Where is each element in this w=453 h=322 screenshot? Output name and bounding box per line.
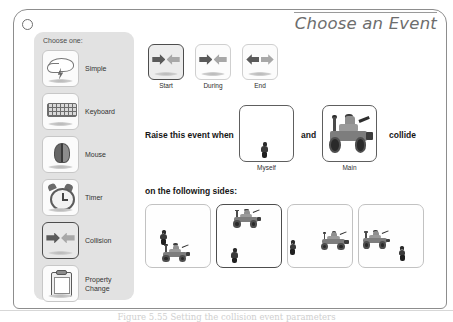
timing-option-end[interactable]: End [242,44,278,89]
choose-event-dialog: Choose an Event Choose one: Simple Keybo… [13,9,447,309]
condition-conjunction-label: and [301,130,316,140]
category-panel: Choose one: Simple Keyboard Mouse [34,32,134,300]
side-option-3[interactable] [287,204,353,268]
timing-option-during[interactable]: During [195,44,231,89]
object-b-slot[interactable] [322,105,377,162]
side-option-4[interactable] [358,204,424,268]
sidebar-item-label: Simple [85,65,106,74]
sidebar-item-label: Property Change [85,276,111,293]
rover-sprite [362,230,390,250]
sidebar-item-label: Keyboard [85,108,115,117]
sidebar-item-simple[interactable]: Simple [42,50,130,88]
collision-arrows-icon [42,222,79,259]
choose-one-label: Choose one: [43,37,83,44]
minifigure-sprite [231,248,238,263]
minifigure-sprite [399,246,406,261]
minifigure-sprite [261,142,268,157]
sidebar-item-timer[interactable]: Timer [42,179,130,217]
collision-arrows-apart-icon [242,44,278,80]
timing-option-label: Start [148,82,184,89]
collision-arrows-icon [148,44,184,80]
keyboard-icon [42,93,79,130]
side-option-2[interactable] [216,204,282,268]
page-divider [0,310,453,311]
minifigure-sprite [289,240,296,255]
timing-option-label: During [195,82,231,89]
sidebar-item-property-change[interactable]: Property Change [42,265,130,303]
collision-arrows-icon [195,44,231,80]
timing-option-start[interactable]: Start [148,44,184,89]
close-circle-icon[interactable] [22,19,33,30]
sidebar-item-label: Collision [85,237,111,246]
figure-caption: Figure 5.55 Setting the collision event … [0,312,453,322]
sides-label: on the following sides: [145,186,237,196]
rover-sprite [327,114,372,155]
clipboard-icon [42,265,79,302]
side-option-1[interactable] [145,204,211,268]
cloud-lightning-icon [42,50,79,87]
minifigure-sprite [160,230,167,245]
object-a-caption: Myself [239,164,294,171]
sidebar-item-collision[interactable]: Collision [42,222,130,260]
condition-suffix-label: collide [389,130,416,140]
object-a-slot[interactable] [239,105,294,162]
sidebar-item-keyboard[interactable]: Keyboard [42,93,130,131]
object-b-caption: Main [322,164,377,171]
sidebar-item-mouse[interactable]: Mouse [42,136,130,174]
mouse-icon [42,136,79,173]
condition-prefix-label: Raise this event when [145,130,234,140]
alarm-clock-icon [42,179,79,216]
rover-sprite [320,231,348,251]
rover-sprite [232,209,260,229]
rover-sprite [161,243,189,263]
sidebar-item-label: Timer [85,194,103,203]
title-divider [294,12,437,13]
timing-option-label: End [242,82,278,89]
sidebar-item-label: Mouse [85,151,106,160]
dialog-title: Choose an Event [295,14,437,33]
